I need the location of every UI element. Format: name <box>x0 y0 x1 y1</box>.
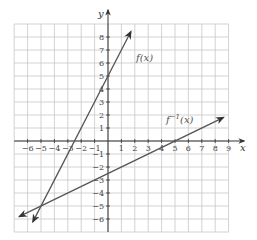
y-tick-label: −4 <box>92 189 104 198</box>
y-tick-label: −1 <box>92 150 104 159</box>
x-tick-label: 3 <box>146 144 151 153</box>
x-tick-label: 1 <box>119 144 124 153</box>
function-inverse-graph: −6−5−4−3−2−1123456789−6−5−4−3−2−11234567… <box>0 0 257 240</box>
x-tick-label: −6 <box>22 144 34 153</box>
x-tick-label: 7 <box>199 144 204 153</box>
x-tick-label: 2 <box>132 144 137 153</box>
x-tick-label: −2 <box>75 144 87 153</box>
y-tick-label: 1 <box>99 124 104 133</box>
f-inverse-label: f−1(x) <box>165 113 194 125</box>
x-tick-label: 5 <box>172 144 177 153</box>
y-tick-label: 7 <box>99 46 104 55</box>
y-tick-label: 3 <box>99 98 104 107</box>
y-tick-label: −5 <box>92 202 104 211</box>
f-label: f(x) <box>135 52 153 63</box>
x-tick-label: 9 <box>226 144 231 153</box>
x-tick-label: 8 <box>213 144 218 153</box>
y-tick-label: 5 <box>99 72 104 81</box>
y-tick-label: −2 <box>92 163 104 172</box>
y-axis-label: y <box>97 8 104 19</box>
x-tick-label: −4 <box>49 144 61 153</box>
x-tick-label: 6 <box>186 144 191 153</box>
y-tick-label: 6 <box>99 59 104 68</box>
x-tick-label: −5 <box>35 144 47 153</box>
y-tick-label: −6 <box>92 215 104 224</box>
y-tick-label: 2 <box>99 111 104 120</box>
axes <box>14 10 244 232</box>
y-tick-label: 8 <box>99 33 104 42</box>
grid <box>14 24 228 232</box>
x-axis-label: x <box>240 142 246 153</box>
